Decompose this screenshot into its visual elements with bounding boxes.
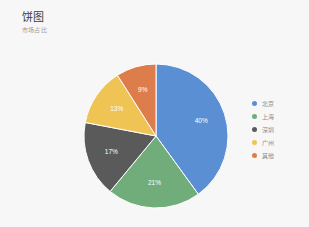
- legend-swatch-icon: [252, 114, 257, 119]
- legend-item-上海[interactable]: 上海: [252, 110, 274, 123]
- pie-slice-value-广州: 13%: [110, 105, 123, 112]
- legend-item-其他[interactable]: 其他: [252, 149, 274, 162]
- legend-item-广州[interactable]: 广州: [252, 136, 274, 149]
- pie-slice-value-其他: 9%: [138, 86, 148, 93]
- legend-swatch-icon: [252, 101, 257, 106]
- pie-slice-value-北京: 40%: [195, 117, 208, 124]
- legend-item-label: 北京: [262, 100, 274, 108]
- plot-area: 40%21%17%13%9%: [0, 0, 245, 227]
- legend-swatch-icon: [252, 127, 257, 132]
- legend-item-深圳[interactable]: 深圳: [252, 123, 274, 136]
- pie-chart-card: 饼图 市场占比 40%21%17%13%9% 北京上海深圳广州其他: [0, 0, 309, 227]
- legend-swatch-icon: [252, 140, 257, 145]
- legend-item-label: 其他: [262, 152, 274, 160]
- legend-item-label: 广州: [262, 139, 274, 147]
- legend-item-label: 上海: [262, 113, 274, 121]
- legend-swatch-icon: [252, 153, 257, 158]
- pie-slice-value-深圳: 17%: [105, 148, 118, 155]
- pie-slice-value-上海: 21%: [148, 179, 161, 186]
- pie-slices: [84, 64, 228, 208]
- legend-item-label: 深圳: [262, 126, 274, 134]
- legend-item-北京[interactable]: 北京: [252, 97, 274, 110]
- chart-legend: 北京上海深圳广州其他: [252, 97, 274, 162]
- pie-svg: 40%21%17%13%9%: [83, 63, 229, 209]
